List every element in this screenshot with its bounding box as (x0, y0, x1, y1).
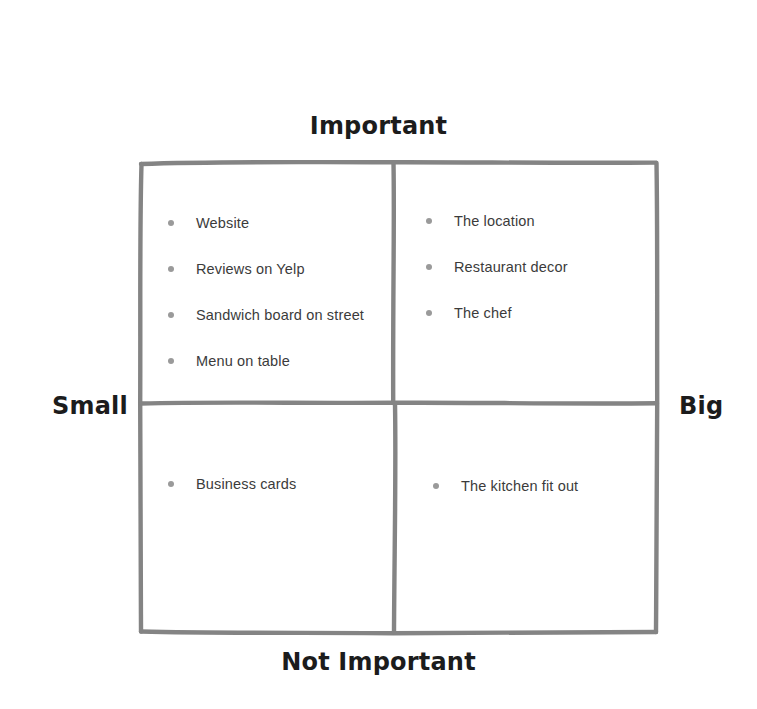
bullet-icon (433, 483, 439, 489)
list-item: Sandwich board on street (168, 292, 393, 338)
quadrant-small-important: Website Reviews on Yelp Sandwich board o… (140, 162, 393, 403)
bullet-icon (168, 358, 174, 364)
list-item-label: Business cards (196, 476, 296, 492)
list-item: The kitchen fit out (433, 463, 657, 509)
list-item-label: The kitchen fit out (461, 478, 578, 494)
quadrant-big-not-important: The kitchen fit out (393, 403, 657, 633)
bullet-icon (426, 264, 432, 270)
list-item-label: Reviews on Yelp (196, 261, 305, 277)
list-item-label: Sandwich board on street (196, 307, 364, 323)
list-item-label: The chef (454, 305, 512, 321)
axis-label-not-important: Not Important (0, 648, 757, 676)
list-item-label: The location (454, 213, 535, 229)
list-item: Business cards (168, 461, 393, 507)
bullet-icon (426, 218, 432, 224)
quadrant-big-important: The location Restaurant decor The chef (393, 162, 657, 403)
list-item-label: Website (196, 215, 249, 231)
list-item: Website (168, 200, 393, 246)
axis-label-big: Big (679, 392, 723, 420)
list-item: Restaurant decor (426, 244, 657, 290)
list-item: The chef (426, 290, 657, 336)
bullet-icon (168, 266, 174, 272)
list-item: The location (426, 198, 657, 244)
quadrant-item-list: The location Restaurant decor The chef (426, 198, 657, 336)
list-item-label: Menu on table (196, 353, 290, 369)
list-item-label: Restaurant decor (454, 259, 568, 275)
axis-label-important: Important (0, 112, 757, 140)
bullet-icon (426, 310, 432, 316)
quadrant-item-list: The kitchen fit out (433, 463, 657, 509)
quadrant-small-not-important: Business cards (140, 403, 393, 633)
list-item: Reviews on Yelp (168, 246, 393, 292)
bullet-icon (168, 312, 174, 318)
axis-label-small: Small (52, 392, 128, 420)
quadrant-item-list: Website Reviews on Yelp Sandwich board o… (168, 200, 393, 384)
quadrant-item-list: Business cards (168, 461, 393, 507)
bullet-icon (168, 220, 174, 226)
list-item: Menu on table (168, 338, 393, 384)
bullet-icon (168, 481, 174, 487)
